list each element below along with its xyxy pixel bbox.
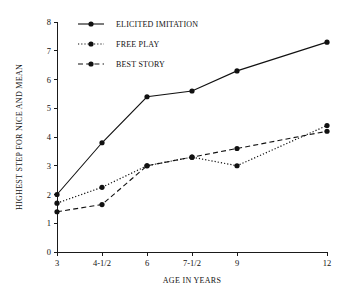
- line-chart: 012345678 HIGHEST STEP FOR NICE AND MEAN…: [0, 0, 341, 297]
- y-tick-label: 6: [47, 75, 51, 85]
- chart-legend: ELICITED IMITATIONFREE PLAYBEST STORY: [78, 20, 198, 69]
- x-axis-title: AGE IN YEARS: [163, 276, 221, 285]
- data-point: [54, 201, 59, 206]
- legend-marker: [88, 41, 93, 46]
- data-point: [99, 140, 104, 145]
- legend-item-3: BEST STORY: [78, 60, 165, 69]
- x-tick-label: 7-1/2: [183, 258, 201, 268]
- data-point: [234, 68, 239, 73]
- x-tick-label: 12: [323, 258, 332, 268]
- data-point: [99, 185, 104, 190]
- data-point: [189, 88, 194, 93]
- x-axis: 34-1/267-1/2912 AGE IN YEARS: [55, 252, 331, 285]
- data-point: [189, 155, 194, 160]
- y-tick-label: 2: [47, 190, 51, 200]
- legend-item-2: FREE PLAY: [78, 40, 160, 49]
- x-axis-ticks: 34-1/267-1/2912: [55, 252, 331, 268]
- data-point: [54, 192, 59, 197]
- series-2: [54, 123, 329, 206]
- x-tick-label: 9: [235, 258, 239, 268]
- y-tick-label: 4: [47, 132, 52, 142]
- legend-label: FREE PLAY: [116, 40, 160, 49]
- legend-label: ELICITED IMITATION: [116, 20, 198, 29]
- legend-marker: [88, 61, 93, 66]
- y-tick-label: 7: [47, 46, 51, 56]
- series-line: [57, 42, 327, 194]
- data-point: [54, 209, 59, 214]
- series-3: [54, 129, 329, 215]
- data-point: [144, 163, 149, 168]
- y-axis: 012345678 HIGHEST STEP FOR NICE AND MEAN: [15, 17, 57, 257]
- chart-figure: 012345678 HIGHEST STEP FOR NICE AND MEAN…: [0, 0, 341, 297]
- y-axis-title: HIGHEST STEP FOR NICE AND MEAN: [15, 64, 24, 210]
- data-point: [234, 146, 239, 151]
- legend-label: BEST STORY: [116, 60, 165, 69]
- data-point: [324, 40, 329, 45]
- data-series-group: [54, 40, 329, 215]
- data-point: [324, 129, 329, 134]
- y-tick-label: 5: [47, 103, 51, 113]
- data-point: [234, 163, 239, 168]
- x-tick-label: 6: [145, 258, 149, 268]
- data-point: [99, 202, 104, 207]
- x-tick-label: 4-1/2: [93, 258, 111, 268]
- legend-marker: [88, 21, 93, 26]
- series-line: [57, 126, 327, 204]
- x-tick-label: 3: [55, 258, 59, 268]
- series-1: [54, 40, 329, 198]
- y-tick-label: 1: [47, 218, 51, 228]
- data-point: [144, 94, 149, 99]
- data-point: [324, 123, 329, 128]
- y-tick-label: 3: [47, 161, 51, 171]
- y-tick-label: 8: [47, 17, 51, 27]
- legend-item-1: ELICITED IMITATION: [78, 20, 198, 29]
- y-axis-ticks: 012345678: [47, 17, 57, 257]
- y-tick-label: 0: [47, 247, 51, 257]
